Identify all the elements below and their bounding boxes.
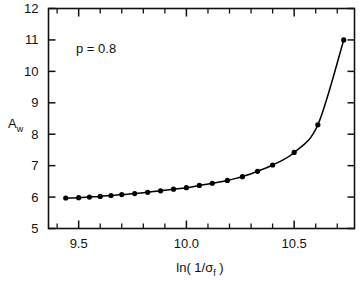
- data-point-marker: [210, 181, 215, 186]
- y-tick-label: 10: [24, 64, 38, 79]
- y-tick-label: 12: [24, 1, 38, 16]
- x-tick-label: 10.0: [174, 236, 199, 251]
- data-point-marker: [270, 162, 275, 167]
- x-axis-label-main: ln( 1/σ: [176, 260, 213, 275]
- data-point-marker: [158, 188, 163, 193]
- y-tick-label: 9: [31, 95, 38, 110]
- y-tick-label: 7: [31, 158, 38, 173]
- data-point-marker: [63, 195, 68, 200]
- data-point-marker: [87, 194, 92, 199]
- y-axis-label-main: A: [8, 116, 17, 131]
- data-point-marker: [171, 187, 176, 192]
- y-tick-label: 5: [31, 221, 38, 236]
- data-point-marker: [341, 37, 346, 42]
- x-axis-label-close: ): [216, 260, 224, 275]
- y-tick-label: 6: [31, 190, 38, 205]
- y-tick-label: 11: [25, 32, 39, 47]
- data-point-marker: [184, 185, 189, 190]
- chart-figure: 567891011129.510.010.5p = 0.8Awln( 1/σf …: [0, 0, 361, 283]
- data-point-marker: [76, 195, 81, 200]
- data-point-marker: [315, 122, 320, 127]
- x-tick-label: 9.5: [70, 236, 88, 251]
- data-point-marker: [108, 193, 113, 198]
- data-point-marker: [197, 183, 202, 188]
- data-point-marker: [292, 150, 297, 155]
- data-point-marker: [240, 174, 245, 179]
- y-axis-label-subscript: w: [16, 124, 24, 134]
- data-point-marker: [225, 178, 230, 183]
- annotation-p-value: p = 0.8: [76, 41, 116, 56]
- data-point-marker: [255, 169, 260, 174]
- y-tick-label: 8: [31, 127, 38, 142]
- data-point-marker: [132, 191, 137, 196]
- x-tick-label: 10.5: [282, 236, 307, 251]
- data-point-marker: [98, 194, 103, 199]
- data-point-marker: [119, 192, 124, 197]
- data-point-marker: [145, 190, 150, 195]
